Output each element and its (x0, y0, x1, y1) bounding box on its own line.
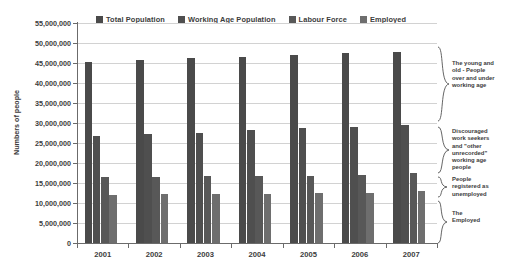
x-tick-label: 2001 (78, 250, 128, 259)
bar (212, 194, 220, 243)
bar (109, 195, 117, 243)
y-tick-label: 20,000,000 (35, 159, 71, 168)
y-axis-title: Numbers of people (12, 63, 21, 183)
bar (393, 52, 401, 243)
y-tick-label: 30,000,000 (35, 119, 71, 128)
bar (136, 60, 144, 243)
x-tick-mark (231, 244, 232, 248)
x-tick-mark (386, 244, 387, 248)
bar (358, 175, 366, 243)
x-tick-label: 2007 (386, 250, 436, 259)
bar (299, 128, 307, 243)
bar (247, 130, 255, 243)
x-tick-label: 2006 (335, 250, 385, 259)
x-tick-mark (77, 244, 78, 248)
y-tick-label: 0 (67, 239, 71, 248)
x-tick-mark (283, 244, 284, 248)
brace-registered-unemployed (437, 176, 449, 198)
x-tick-mark (334, 244, 335, 248)
bar (239, 57, 247, 243)
legend-swatch-employed (360, 16, 367, 23)
bar (350, 127, 358, 243)
bar (410, 173, 418, 243)
legend-swatch-working-age-population (178, 16, 185, 23)
bar (85, 62, 93, 243)
bar (315, 193, 323, 243)
brace-discouraged-seekers (437, 126, 451, 174)
plot-area (77, 23, 437, 243)
bar (307, 176, 315, 243)
legend-swatch-total-population (96, 16, 103, 23)
x-tick-mark (180, 244, 181, 248)
annotation-young-and-old: The young and old - People over and unde… (452, 60, 498, 89)
y-tick-label: 55,000,000 (35, 19, 71, 28)
brace-the-employed (437, 200, 449, 244)
bar-chart: Total Population Working Age Population … (0, 0, 508, 275)
bar (366, 193, 374, 243)
bar (187, 58, 195, 243)
x-axis-line (77, 243, 438, 244)
bar (144, 134, 152, 243)
legend-swatch-labour-force (289, 16, 296, 23)
x-tick-mark (128, 244, 129, 248)
y-tick-label: 45,000,000 (35, 59, 71, 68)
bar (401, 125, 409, 243)
x-tick-label: 2004 (232, 250, 282, 259)
bar (255, 176, 263, 243)
bar (264, 194, 272, 243)
bar (196, 133, 204, 243)
y-tick-label: 40,000,000 (35, 79, 71, 88)
bar (204, 176, 212, 243)
y-tick-label: 50,000,000 (35, 39, 71, 48)
brace-young-and-old (437, 46, 451, 122)
y-tick-label: 35,000,000 (35, 99, 71, 108)
y-tick-label: 25,000,000 (35, 139, 71, 148)
bar (101, 177, 109, 243)
y-tick-label: 10,000,000 (35, 199, 71, 208)
y-tick-label: 5,000,000 (39, 219, 71, 228)
y-tick-label: 15,000,000 (35, 179, 71, 188)
x-tick-label: 2003 (181, 250, 231, 259)
x-tick-label: 2005 (283, 250, 333, 259)
bar (342, 53, 350, 243)
bar (290, 55, 298, 243)
annotation-registered-unemployed: People registered as unemployed (452, 176, 498, 198)
bar (418, 191, 426, 243)
bar (152, 177, 160, 243)
bar (93, 136, 101, 243)
x-tick-label: 2002 (129, 250, 179, 259)
x-tick-mark (437, 244, 438, 248)
annotation-discouraged-seekers: Discouraged work seekers and "other unre… (452, 128, 500, 172)
bar (161, 194, 169, 243)
annotation-the-employed: The Employed (452, 210, 492, 225)
